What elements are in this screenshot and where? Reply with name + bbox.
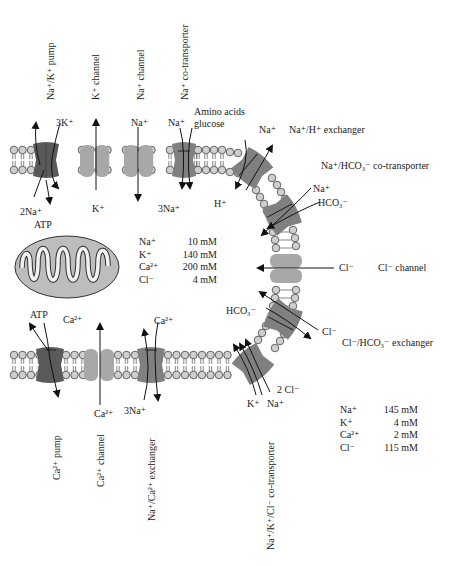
ca-channel-protein (84, 349, 114, 381)
conc-row: Na⁺10 mM (139, 236, 217, 249)
mitochondrion (15, 236, 119, 298)
conc-row: Na⁺145 mM (340, 404, 418, 417)
ion-na-channel: Na⁺ (131, 117, 148, 128)
label-ca-pump: Ca²⁺ pump (51, 435, 62, 480)
ion-3na-top: 3Na⁺ (158, 203, 180, 214)
conc-row: K⁺140 mM (139, 249, 217, 262)
ion-k-channel: K⁺ (92, 203, 105, 214)
cl-hco3-exchanger-protein (261, 297, 304, 340)
conc-row: Cl⁻4 mM (139, 274, 217, 287)
label-atp-top: ATP (34, 219, 52, 230)
label-atp-bottom: ATP (30, 309, 48, 320)
conc-row: Cl⁻115 mM (340, 442, 418, 455)
label-k-channel: K⁺ channel (90, 54, 101, 100)
label-nah-exchanger: Na⁺/H⁺ exchanger (289, 124, 365, 135)
label-na-hco3-cotransporter: Na⁺/HCO₃⁻ co-transporter (321, 160, 429, 171)
ion-2cl: 2 Cl⁻ (277, 384, 299, 395)
conc-row: Ca²⁺200 mM (139, 261, 217, 274)
ion-ca-exchanger: Ca²⁺ (154, 315, 173, 326)
label-cl-hco3-exchanger: Cl⁻/HCO₃⁻ exchanger (342, 337, 433, 348)
label-nakcl-cotransporter: Na⁺/K⁺/Cl⁻ co-transporter (265, 442, 276, 550)
ion-ca-channel: Ca²⁺ (94, 408, 113, 419)
ion-ca-pump: Ca²⁺ (63, 314, 82, 325)
ion-k-b: K⁺ (247, 398, 260, 409)
label-glucose: glucose (194, 118, 225, 129)
label-na-ca-exchanger: Na⁺/Ca²⁺ exchanger (146, 438, 157, 521)
ion-na-hco3: Na⁺ (313, 183, 330, 194)
label-nak-pump: Na⁺/K⁺ pump (45, 43, 56, 101)
ion-3k: 3K⁺ (56, 117, 74, 128)
ion-na-cotrans: Na⁺ (168, 117, 185, 128)
ion-2na: 2Na⁺ (20, 206, 42, 217)
ion-h: H⁺ (214, 198, 227, 209)
label-amino-acids: Amino acids (194, 106, 245, 117)
conc-row: Ca²⁺2 mM (340, 429, 418, 442)
ion-cl-b: Cl⁻ (322, 326, 337, 337)
conc-row: K⁺4 mM (340, 417, 418, 430)
nak-pump-protein (33, 142, 59, 178)
ion-hco3-a: HCO₃⁻ (318, 197, 348, 208)
label-na-cotransporter: Na⁺ co-transporter (179, 24, 190, 100)
ion-na-exchanger: Na⁺ (259, 124, 276, 135)
ion-cl: Cl⁻ (339, 262, 354, 273)
membrane-diagram (0, 0, 450, 566)
label-na-channel: Na⁺ channel (135, 49, 146, 100)
ion-hco3-b: HCO₃⁻ (226, 305, 256, 316)
ion-na-b: Na⁺ (267, 398, 284, 409)
ca-pump-protein (36, 347, 64, 383)
na-ca-exchanger-protein (137, 347, 165, 383)
label-ca-channel: Ca²⁺ channel (95, 434, 106, 487)
extracellular-concentrations: Na⁺145 mM K⁺4 mM Ca²⁺2 mM Cl⁻115 mM (340, 404, 418, 454)
nakcl-cotransporter-protein (230, 341, 275, 386)
intracellular-concentrations: Na⁺10 mM K⁺140 mM Ca²⁺200 mM Cl⁻4 mM (139, 236, 217, 286)
label-cl-channel: Cl⁻ channel (378, 262, 426, 273)
ion-3na-bottom: 3Na⁺ (124, 405, 146, 416)
